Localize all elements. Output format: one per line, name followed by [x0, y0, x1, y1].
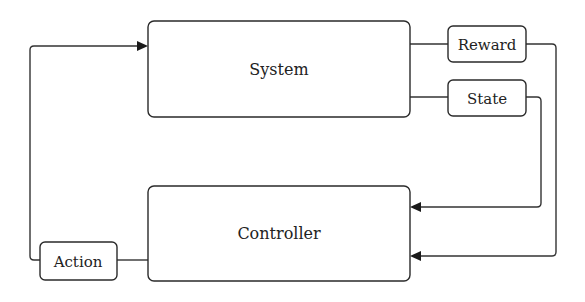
action-signal: Action — [40, 242, 117, 280]
reward-label: Reward — [458, 36, 517, 54]
action-label: Action — [53, 253, 103, 271]
action-to-system-wire — [30, 46, 140, 260]
state-signal: State — [448, 80, 526, 116]
controller-label: Controller — [237, 224, 321, 243]
reward-to-controller-wire — [420, 44, 556, 256]
reward-signal: Reward — [448, 26, 526, 62]
controller-block: Controller — [148, 186, 410, 281]
controller-reward-arrowhead — [410, 251, 421, 261]
controller-state-arrowhead — [410, 202, 421, 212]
system-input-arrowhead — [137, 41, 148, 51]
reinforcement-loop-diagram: System Controller Reward State Action — [0, 0, 585, 302]
system-label: System — [249, 60, 308, 79]
state-label: State — [467, 90, 507, 108]
system-block: System — [148, 21, 410, 117]
